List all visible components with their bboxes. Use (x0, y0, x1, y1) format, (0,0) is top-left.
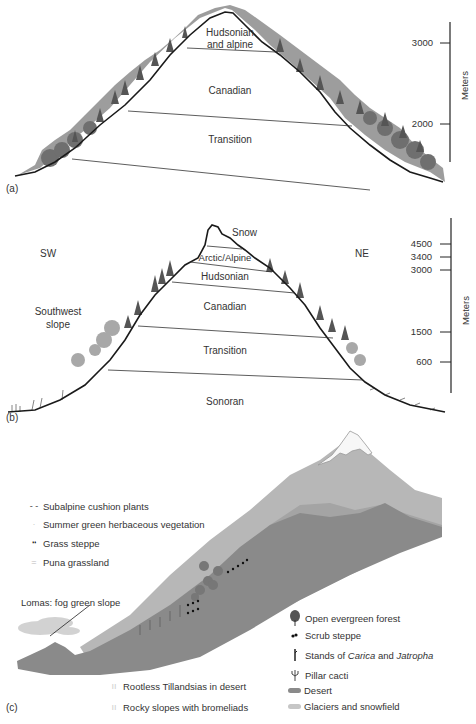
legend-item-glaciers: Glaciers and snowfield (288, 701, 400, 712)
panel-label-c: (c) (6, 702, 18, 714)
panel-label-a: (a) (6, 183, 18, 195)
axis-tick-3000: 3000 (399, 37, 433, 48)
dash-icon: - - (28, 501, 40, 512)
legend-label: Rocky slopes with bromeliads (123, 702, 248, 713)
legend-label: Scrub steppe (305, 630, 361, 641)
panel-c-andes-vegetation: - - Subalpine cushion plants · Summer gr… (0, 425, 476, 724)
legend-item-puna: = Puna grassland (28, 557, 109, 568)
panel-b-mountain-zones: SW NE Southwest slope Snow Arctic/Alpine… (0, 200, 476, 425)
direction-label-ne: NE (355, 248, 369, 260)
tillandsia-icon: ıı (108, 681, 120, 692)
tree-icon (288, 610, 302, 626)
bromeliad-icon: ıı (108, 702, 120, 713)
legend-item-cacti: Pillar cacti (288, 668, 348, 682)
zone-label-snow: Snow (232, 227, 257, 239)
legend-label: Glaciers and snowfield (304, 701, 400, 712)
grass-steppe-icon: ❛❛ (28, 538, 40, 549)
slope-label-line1: Southwest (35, 306, 82, 318)
axis-tick-3400: 3400 (398, 251, 432, 262)
zone-label-arctic-alpine: Arctic/Alpine (199, 252, 252, 264)
zone-label-transition: Transition (203, 345, 247, 357)
legend-item-subalpine: - - Subalpine cushion plants (28, 501, 149, 512)
axis-tick-1500: 1500 (398, 326, 432, 337)
legend-genus-jatropha: Jatropha (396, 650, 433, 661)
cactus-icon (288, 668, 302, 682)
slope-label-line2: slope (46, 319, 70, 331)
legend-label: Desert (304, 685, 332, 696)
zone-label-canadian: Canadian (209, 85, 252, 97)
axis-tick-3000: 3000 (398, 264, 432, 275)
legend-item-forest: Open evergreen forest (288, 610, 400, 626)
axis-title-meters: Meters (460, 296, 471, 325)
zone-label-sonoran: Sonoran (206, 396, 244, 408)
legend-label: Summer green herbaceous vegetation (43, 519, 205, 530)
zone-label-canadian: Canadian (204, 301, 247, 313)
legend-label: Stands of (305, 650, 345, 661)
zone-label-hudsonian-alpine-line2: and alpine (207, 39, 253, 51)
legend-label: Open evergreen forest (305, 613, 400, 624)
legend-label: Rootless Tillandsias in desert (123, 681, 246, 692)
legend-item-bromeliads: ıı Rocky slopes with bromeliads (108, 702, 248, 713)
axis-tick-2000: 2000 (399, 118, 433, 129)
legend-item-stands: Stands of Carica and Jatropha (288, 648, 433, 662)
panel-a-mountain-zones: Hudsonian and alpine Canadian Transition… (0, 0, 476, 200)
axis-tick-4500: 4500 (398, 238, 432, 249)
legend-label: Pillar cacti (305, 670, 348, 681)
legend-item-summer-green: · Summer green herbaceous vegetation (28, 519, 205, 530)
legend-label: Puna grassland (43, 557, 109, 568)
zone-label-hudsonian: Hudsonian (201, 271, 249, 283)
puna-icon: = (28, 557, 40, 568)
carica-icon (288, 648, 302, 662)
glacier-swatch-icon (288, 704, 301, 709)
axis-tick-600: 600 (398, 356, 432, 367)
legend-item-grass-steppe: ❛❛ Grass steppe (28, 538, 100, 549)
scrub-icon (288, 631, 302, 641)
legend-genus-carica: Carica (348, 650, 375, 661)
zone-label-transition: Transition (208, 134, 252, 146)
legend-item-desert: Desert (288, 685, 332, 696)
annotation-lomas: Lomas: fog green slope (21, 597, 120, 609)
legend-item-tillandsias: ıı Rootless Tillandsias in desert (108, 681, 246, 692)
legend-label-and: and (378, 650, 394, 661)
panel-label-b: (b) (6, 412, 18, 424)
desert-swatch-icon (288, 688, 301, 693)
andes-profile-illustration (0, 425, 476, 724)
zone-label-hudsonian-alpine-line1: Hudsonian (206, 27, 254, 39)
legend-item-scrub: Scrub steppe (288, 630, 361, 641)
axis-title-meters: Meters (459, 71, 470, 100)
legend-label: Subalpine cushion plants (43, 501, 149, 512)
legend-label: Grass steppe (43, 538, 100, 549)
dot-icon: · (28, 519, 40, 530)
direction-label-sw: SW (40, 248, 56, 260)
